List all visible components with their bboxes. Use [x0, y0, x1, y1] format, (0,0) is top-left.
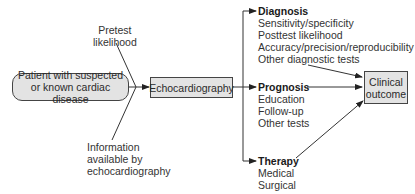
pretest-line2: likelihood	[93, 36, 137, 48]
pretest-likelihood-label: Pretest likelihood	[93, 24, 137, 48]
information-line2: available by	[87, 153, 170, 165]
diagnosis-item: Other diagnostic tests	[258, 53, 414, 65]
diagnosis-item: Posttest likelihood	[258, 29, 414, 41]
diagnosis-branch: Diagnosis Sensitivity/specificity Postte…	[258, 5, 414, 65]
diagnosis-item: Accuracy/precision/reproducibility	[258, 41, 414, 53]
patient-line2: or known cardiac disease	[13, 81, 128, 105]
clinical-outcome-node: Clinical outcome	[364, 71, 408, 104]
prognosis-item: Education	[258, 93, 309, 105]
prognosis-item: Other tests	[258, 117, 309, 129]
therapy-title: Therapy	[258, 155, 299, 167]
outcome-line1: Clinical	[366, 76, 406, 88]
pretest-line1: Pretest	[93, 24, 137, 36]
patient-line1: Patient with suspected	[13, 69, 128, 81]
echo-label: Echocardiography	[149, 82, 234, 94]
prognosis-item: Follow-up	[258, 105, 309, 117]
echocardiography-node: Echocardiography	[150, 77, 233, 98]
patient-node: Patient with suspected or known cardiac …	[12, 73, 129, 101]
therapy-item: Medical	[258, 167, 299, 179]
information-line1: Information	[87, 141, 170, 153]
therapy-branch: Therapy Medical Surgical	[258, 155, 299, 191]
therapy-item: Surgical	[258, 179, 299, 191]
outcome-line2: outcome	[366, 88, 406, 100]
diagnosis-item: Sensitivity/specificity	[258, 17, 414, 29]
prognosis-title: Prognosis	[258, 81, 309, 93]
diagnosis-title: Diagnosis	[258, 5, 414, 17]
information-available-label: Information available by echocardiograph…	[87, 141, 170, 177]
information-line3: echocardiography	[87, 165, 170, 177]
prognosis-branch: Prognosis Education Follow-up Other test…	[258, 81, 309, 129]
